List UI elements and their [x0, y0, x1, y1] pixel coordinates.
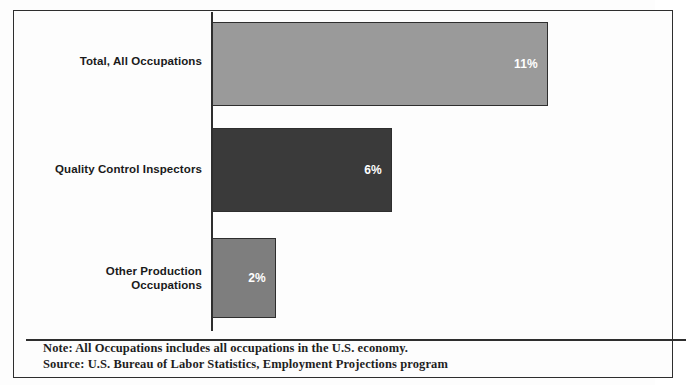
bar-value-total-all-occupations: 11% [514, 57, 538, 71]
bar-row-other-production-occupations: Other Production Occupations 2% [13, 238, 655, 318]
bar-value-quality-control-inspectors: 6% [364, 163, 382, 177]
footnote-note: Note: All Occupations includes all occup… [43, 340, 448, 356]
bar-other-production-occupations[interactable]: 2% [212, 238, 276, 318]
bar-total-all-occupations[interactable]: 11% [212, 22, 548, 106]
bar-label-other-production-occupations: Other Production Occupations [17, 264, 202, 292]
bar-row-quality-control-inspectors: Quality Control Inspectors 6% [13, 128, 655, 212]
bar-label-quality-control-inspectors: Quality Control Inspectors [17, 162, 202, 176]
bar-row-total-all-occupations: Total, All Occupations 11% [13, 22, 655, 106]
chart-footnotes: Note: All Occupations includes all occup… [43, 340, 448, 372]
bar-label-line-1: Quality Control Inspectors [55, 163, 202, 175]
bar-quality-control-inspectors[interactable]: 6% [212, 128, 392, 212]
footnote-source: Source: U.S. Bureau of Labor Statistics,… [43, 356, 448, 372]
bar-label-line-1: Other Production [106, 265, 202, 277]
bar-label-line-2: Occupations [131, 279, 202, 291]
chart-plot-area: Total, All Occupations 11% Quality Contr… [13, 10, 655, 331]
bar-label-total-all-occupations: Total, All Occupations [17, 54, 202, 68]
bar-label-line-1: Total, All Occupations [80, 55, 202, 67]
bar-value-other-production-occupations: 2% [248, 271, 266, 285]
